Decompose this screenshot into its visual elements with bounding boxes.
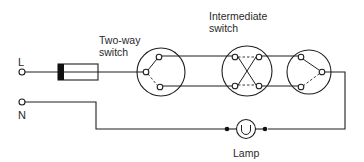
two-way-switch-1-icon xyxy=(137,48,185,96)
fuse-icon xyxy=(58,64,98,80)
neutral-label: N xyxy=(18,109,26,121)
live-terminal-icon xyxy=(19,69,25,75)
two-way-switch-label-line2: switch xyxy=(99,46,128,58)
lamp-icon xyxy=(225,120,268,139)
live-circuit xyxy=(19,64,143,80)
switch-wire xyxy=(268,72,345,129)
intermediate-switch-icon xyxy=(222,46,272,96)
two-way-switch-label-line1: Two-way xyxy=(99,34,141,46)
lamp-label: Lamp xyxy=(233,147,259,159)
neutral-circuit xyxy=(19,99,225,129)
intermediate-switch-label-line1: Intermediate xyxy=(209,10,268,22)
two-way-switch-2-icon xyxy=(287,50,331,94)
neutral-terminal-icon xyxy=(19,99,25,105)
intermediate-switch-label-line2: switch xyxy=(209,22,238,34)
wiring-diagram: L N Two-way switch Intermediate switch L… xyxy=(0,0,364,162)
live-label: L xyxy=(18,56,24,68)
